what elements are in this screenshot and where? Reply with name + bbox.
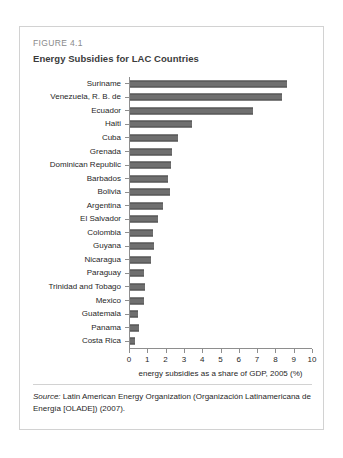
bar-track xyxy=(129,91,312,105)
bar-row: Barbados xyxy=(33,172,312,186)
bar-track xyxy=(129,158,312,172)
category-label: El Salvador xyxy=(33,215,125,223)
category-label: Venezuela, R. B. de xyxy=(33,93,125,101)
category-label: Trinidad and Tobago xyxy=(33,283,125,291)
x-axis-tick-label: 5 xyxy=(218,355,222,364)
x-axis-tick-label: 2 xyxy=(163,355,167,364)
category-label: Guyana xyxy=(33,242,125,250)
bar-track xyxy=(129,185,312,199)
source-prefix: Source: xyxy=(33,392,61,401)
category-label: Nicaragua xyxy=(33,256,125,264)
bar-row: Argentina xyxy=(33,199,312,213)
x-axis-tick xyxy=(202,349,203,353)
bar-track xyxy=(129,307,312,321)
bar-track xyxy=(129,294,312,308)
category-label: Barbados xyxy=(33,175,125,183)
x-axis-tick xyxy=(166,349,167,353)
bar-track xyxy=(129,104,312,118)
bar-row: Ecuador xyxy=(33,104,312,118)
x-axis-tick-labels: 012345678910 xyxy=(129,355,312,367)
x-axis-tick xyxy=(257,349,258,353)
bar-row: Trinidad and Tobago xyxy=(33,280,312,294)
bar xyxy=(130,189,170,196)
bar-row: Paraguay xyxy=(33,267,312,281)
bar xyxy=(130,162,171,169)
figure-number-label: FIGURE 4.1 xyxy=(33,38,83,48)
x-axis-tick-label: 4 xyxy=(200,355,204,364)
category-label: Grenada xyxy=(33,148,125,156)
bar-row: Bolivia xyxy=(33,185,312,199)
x-axis-tick xyxy=(129,349,130,353)
bar xyxy=(130,256,151,263)
x-axis-tick-label: 8 xyxy=(273,355,277,364)
figure-title: Energy Subsidies for LAC Countries xyxy=(33,53,199,64)
x-axis-tick xyxy=(221,349,222,353)
bar xyxy=(130,324,139,331)
x-axis-tick-label: 10 xyxy=(308,355,317,364)
category-label: Paraguay xyxy=(33,269,125,277)
bar xyxy=(130,134,178,141)
bar-track xyxy=(129,226,312,240)
source-note: Source: Latin American Energy Organizati… xyxy=(33,391,315,414)
bar-track xyxy=(129,118,312,132)
category-label: Panama xyxy=(33,324,125,332)
bar-row: Grenada xyxy=(33,145,312,159)
x-axis-tick-label: 3 xyxy=(182,355,186,364)
source-divider xyxy=(33,384,312,385)
bar xyxy=(130,80,287,87)
bar-track xyxy=(129,145,312,159)
bar-row: Guatemala xyxy=(33,307,312,321)
bar-row: Panama xyxy=(33,321,312,335)
x-axis-tick-label: 9 xyxy=(291,355,295,364)
category-label: Bolivia xyxy=(33,188,125,196)
bar xyxy=(130,338,135,345)
x-axis-tick xyxy=(239,349,240,353)
bar-track xyxy=(129,267,312,281)
chart-plot-area: SurinameVenezuela, R. B. deEcuadorHaitiC… xyxy=(33,77,312,377)
bar xyxy=(130,202,163,209)
x-axis-tick xyxy=(184,349,185,353)
bar-track xyxy=(129,77,312,91)
bar xyxy=(130,121,192,128)
bar xyxy=(130,229,153,236)
x-axis-ticks xyxy=(129,349,312,353)
category-label: Haiti xyxy=(33,120,125,128)
category-label: Mexico xyxy=(33,297,125,305)
bar xyxy=(130,297,144,304)
bar xyxy=(130,311,138,318)
figure-panel: FIGURE 4.1 Energy Subsidies for LAC Coun… xyxy=(19,26,324,430)
bar-row: Nicaragua xyxy=(33,253,312,267)
bar-track xyxy=(129,280,312,294)
category-label: Costa Rica xyxy=(33,337,125,345)
x-axis-tick-label: 6 xyxy=(237,355,241,364)
bar-track xyxy=(129,334,312,348)
bar-track xyxy=(129,321,312,335)
category-label: Dominican Republic xyxy=(33,161,125,169)
bar-track xyxy=(129,131,312,145)
bar xyxy=(130,283,145,290)
bar-track xyxy=(129,253,312,267)
category-label: Cuba xyxy=(33,134,125,142)
x-axis-tick xyxy=(294,349,295,353)
source-text: Latin American Energy Organization (Orga… xyxy=(33,392,311,413)
bar xyxy=(130,216,158,223)
x-axis-tick xyxy=(275,349,276,353)
bar-row: Dominican Republic xyxy=(33,158,312,172)
category-label: Guatemala xyxy=(33,310,125,318)
bar xyxy=(130,243,154,250)
x-axis-tick-label: 7 xyxy=(255,355,259,364)
bar-row: El Salvador xyxy=(33,212,312,226)
x-axis-title: energy subsidies as a share of GDP, 2005… xyxy=(129,369,312,378)
bar xyxy=(130,148,172,155)
x-axis-tick-label: 0 xyxy=(127,355,131,364)
bar xyxy=(130,175,168,182)
bar-row: Suriname xyxy=(33,77,312,91)
x-axis-tick xyxy=(312,349,313,353)
bar-row: Cuba xyxy=(33,131,312,145)
bar-rows: SurinameVenezuela, R. B. deEcuadorHaitiC… xyxy=(33,77,312,348)
bar-row: Colombia xyxy=(33,226,312,240)
bar-row: Venezuela, R. B. de xyxy=(33,91,312,105)
category-label: Suriname xyxy=(33,80,125,88)
category-label: Argentina xyxy=(33,202,125,210)
bar-track xyxy=(129,212,312,226)
